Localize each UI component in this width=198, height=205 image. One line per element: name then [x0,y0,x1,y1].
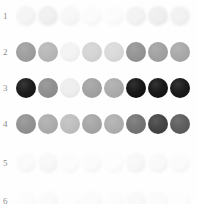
plate-spot [148,191,168,204]
plate-row: 3 [0,77,198,99]
row-label: 3 [3,84,8,93]
plate-spot [148,78,168,98]
row-label: 1 [3,12,8,21]
plate-spot [82,78,102,98]
plate-spot [104,114,124,134]
plate-spot [170,191,190,204]
plate-spot [170,42,190,62]
row-label: 2 [3,48,8,57]
plate-spot [126,42,146,62]
plate-spot [16,6,36,26]
plate-row: 1 [0,5,198,27]
plate-spot [82,153,102,173]
plate-spot [170,114,190,134]
plate-spot [126,78,146,98]
plate-spot [60,78,80,98]
plate-spot [16,153,36,173]
plate-spot [16,191,36,204]
plate-spot [104,78,124,98]
plate-spot [170,153,190,173]
plate-spot [126,191,146,204]
plate-spot [148,42,168,62]
plate-row: 5 [0,152,198,174]
row-label: 6 [3,197,8,205]
plate-spot [148,153,168,173]
plate-spot [16,114,36,134]
plate-spot [170,78,190,98]
plate-spot [60,42,80,62]
plate-spot [60,114,80,134]
plate-spot [104,6,124,26]
plate-spot [60,6,80,26]
row-label: 5 [3,159,8,168]
plate-row: 2 [0,41,198,63]
plate-spot [60,153,80,173]
plate-spot [126,153,146,173]
plate-spot [126,6,146,26]
plate-spot [148,114,168,134]
plate-spot [170,6,190,26]
plate-spot [38,153,58,173]
plate-spot [82,6,102,26]
plate-spot [104,153,124,173]
dot-array-plate: 123456 [0,0,198,204]
plate-spot [38,191,58,204]
plate-spot [38,42,58,62]
plate-spot [60,191,80,204]
plate-row: 4 [0,113,198,135]
plate-spot [104,42,124,62]
plate-spot [104,191,124,204]
plate-spot [16,78,36,98]
plate-row: 6 [0,190,198,204]
plate-spot [82,191,102,204]
plate-spot [82,114,102,134]
plate-spot [148,6,168,26]
plate-spot [38,114,58,134]
plate-spot [38,78,58,98]
plate-spot [126,114,146,134]
row-label: 4 [3,120,8,129]
plate-spot [16,42,36,62]
plate-spot [38,6,58,26]
plate-spot [82,42,102,62]
